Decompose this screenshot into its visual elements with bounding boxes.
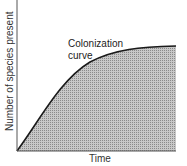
annotation-line-1: Colonization <box>68 38 123 50</box>
annotation-line-2: curve <box>68 50 123 62</box>
y-axis-label: Number of species present <box>4 21 16 131</box>
colonization-chart: Number of species present Time Colonizat… <box>0 0 187 166</box>
curve-annotation: Colonization curve <box>68 38 123 62</box>
chart-plot <box>0 0 187 166</box>
x-axis-label: Time <box>80 153 120 165</box>
